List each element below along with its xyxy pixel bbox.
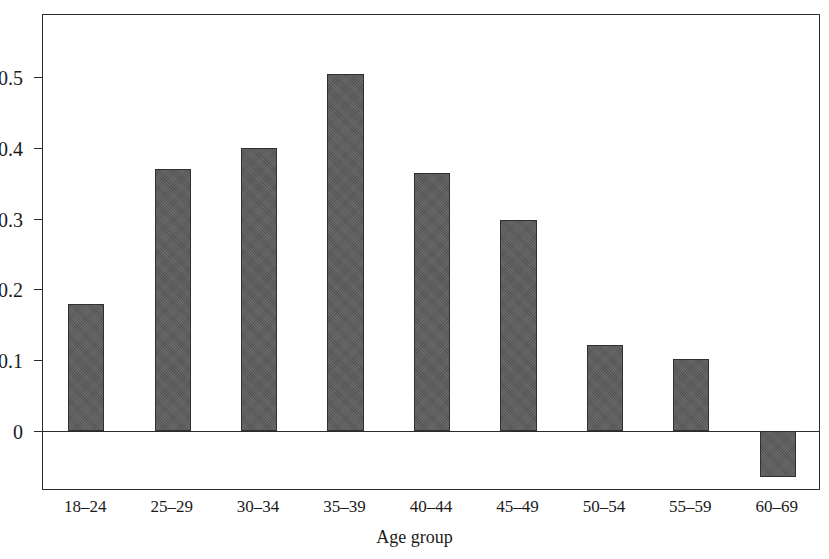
x-axis-tick-label: 45–49 [496,498,539,515]
y-axis-tick-label: 0.4 [0,139,23,159]
x-axis-tick-label: 40–44 [410,498,453,515]
bar [587,345,623,431]
y-axis-tick-label: 0.3 [0,210,23,230]
x-axis-tick-label: 25–29 [150,498,193,515]
bar [414,173,450,431]
x-axis-tick-label: 60–69 [756,498,799,515]
bar [760,431,796,477]
x-axis-tick-label: 50–54 [583,498,626,515]
x-axis-tick-label: 18–24 [64,498,107,515]
y-axis-tick-label: 0 [13,422,23,442]
y-axis-tick-label: 0.5 [0,68,23,88]
y-axis-tick: 0.3 [34,219,43,220]
y-axis-tick: 0.1 [34,360,43,361]
plot-frame: 00.10.20.30.40.5 [42,14,820,490]
bar [155,169,191,431]
y-axis-tick: 0 [34,431,43,432]
bar [673,359,709,431]
y-axis-tick: 0.2 [34,289,43,290]
y-axis-tick: 0.5 [34,77,43,78]
bar-chart-figure: 00.10.20.30.40.5 18–2425–2930–3435–3940–… [0,0,829,559]
x-axis-tick-label: 30–34 [237,498,280,515]
bar [327,74,363,431]
x-axis-tick-label: 55–59 [669,498,712,515]
x-axis-title: Age group [0,528,829,546]
zero-baseline [43,431,819,432]
y-axis-tick-label: 0.1 [0,351,23,371]
y-axis-tick: 0.4 [34,148,43,149]
plot-area: 00.10.20.30.40.5 [43,15,819,489]
bar [241,148,277,431]
bar [68,304,104,431]
y-axis-tick-label: 0.2 [0,280,23,300]
bar [500,220,536,431]
x-axis-tick-label: 35–39 [323,498,366,515]
